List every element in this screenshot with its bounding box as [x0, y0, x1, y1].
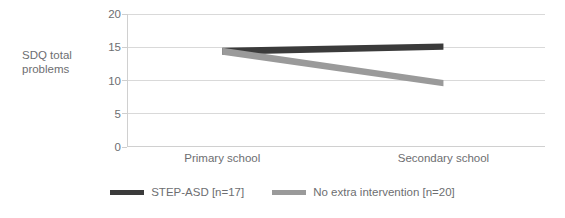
legend-item-2[interactable]: No extra intervention [n=20] [272, 186, 455, 198]
plot-area [127, 14, 545, 147]
legend-label: STEP-ASD [n=17] [151, 186, 244, 198]
y-axis-tick-label: 10 [95, 75, 121, 87]
x-axis-tick-label: Secondary school [398, 152, 489, 164]
x-axis-tick-label: Primary school [184, 152, 260, 164]
y-axis-tick-mark [122, 113, 127, 114]
y-axis-tick-label: 15 [95, 41, 121, 53]
y-axis-tick-mark [122, 47, 127, 48]
y-axis-title: SDQ total problems [22, 48, 100, 76]
y-axis-tick-labels: 05101520 [93, 14, 121, 147]
legend-line-swatch-icon [110, 190, 144, 195]
y-axis-tick-mark [122, 14, 127, 15]
y-axis-tick-label: 20 [95, 8, 121, 20]
line-chart: SDQ total problems 05101520 Primary scho… [0, 0, 565, 218]
y-axis-tick-label: 0 [95, 141, 121, 153]
x-axis-tick-labels: Primary schoolSecondary school [127, 152, 545, 170]
y-axis-tick-mark [122, 80, 127, 81]
y-axis-tick-mark [122, 147, 127, 148]
chart-legend: STEP-ASD [n=17]No extra intervention [n=… [0, 186, 565, 198]
legend-item-1[interactable]: STEP-ASD [n=17] [110, 186, 244, 198]
y-axis-tick-label: 5 [95, 108, 121, 120]
legend-line-swatch-icon [272, 190, 306, 195]
legend-label: No extra intervention [n=20] [313, 186, 455, 198]
series-line-2 [222, 48, 443, 87]
series-layer [127, 14, 545, 147]
